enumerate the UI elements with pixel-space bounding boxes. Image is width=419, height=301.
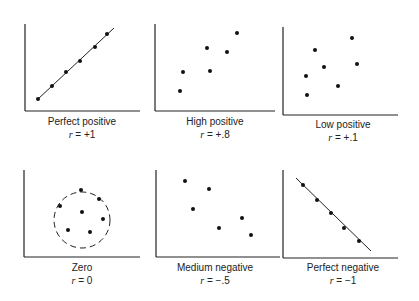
data-point	[80, 210, 84, 214]
data-point	[240, 216, 244, 220]
panel-r-medium-negative: r = −.5	[155, 275, 275, 287]
data-point	[97, 197, 101, 201]
panel-r-perfect-negative: r = −1	[283, 275, 403, 287]
panel-r-high-positive: r = +.8	[155, 129, 275, 141]
panel-r-perfect-positive: r = +1	[22, 129, 142, 141]
data-point	[235, 31, 239, 35]
panel-r-low-positive: r = +.1	[283, 132, 403, 144]
data-point	[304, 74, 308, 78]
data-point	[58, 204, 62, 208]
data-point	[322, 65, 326, 69]
panel-r-zero: r = 0	[22, 275, 142, 287]
data-point	[183, 179, 187, 183]
correlation-scatterplots	[0, 0, 419, 301]
panel-title-high-positive: High positive	[155, 116, 275, 128]
data-point	[336, 84, 340, 88]
data-point	[178, 89, 182, 93]
r-value: = +1	[73, 129, 96, 140]
data-point	[207, 187, 211, 191]
data-point	[315, 198, 319, 202]
r-value: = 0	[75, 275, 92, 286]
data-point	[78, 59, 82, 63]
data-point	[357, 239, 361, 243]
data-point	[105, 32, 109, 36]
panel-title-medium-negative: Medium negative	[155, 262, 275, 274]
data-point	[64, 70, 68, 74]
panel-title-perfect-negative: Perfect negative	[283, 262, 403, 274]
data-point	[50, 84, 54, 88]
data-point	[191, 207, 195, 211]
data-point	[305, 93, 309, 97]
panel-title-low-positive: Low positive	[283, 119, 403, 131]
data-point	[350, 36, 354, 40]
data-point	[208, 69, 212, 73]
data-point	[355, 62, 359, 66]
data-point	[93, 45, 97, 49]
data-point	[101, 217, 105, 221]
data-point	[301, 183, 305, 187]
r-value: = −.5	[204, 275, 230, 286]
r-value: = +.8	[204, 129, 230, 140]
data-point	[181, 70, 185, 74]
r-value: = +.1	[332, 132, 358, 143]
data-point	[225, 50, 229, 54]
fit-line	[38, 28, 114, 99]
data-point	[342, 226, 346, 230]
data-point	[79, 188, 83, 192]
data-point	[66, 228, 70, 232]
data-point	[205, 46, 209, 50]
panel-title-perfect-positive: Perfect positive	[22, 116, 142, 128]
data-point	[329, 211, 333, 215]
panel-title-zero: Zero	[22, 262, 142, 274]
data-point	[88, 230, 92, 234]
data-point	[313, 48, 317, 52]
data-point	[36, 97, 40, 101]
data-point	[249, 233, 253, 237]
r-value: = −1	[334, 275, 357, 286]
data-point	[217, 226, 221, 230]
